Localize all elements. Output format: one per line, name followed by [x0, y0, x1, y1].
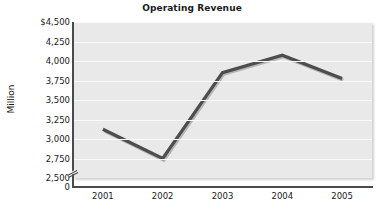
- y-axis-tick-label: 3,250: [24, 116, 70, 125]
- x-axis-tick-label: 2003: [193, 191, 253, 201]
- y-axis-title: Million: [6, 69, 16, 129]
- y-axis-tick-label: $4,500: [24, 18, 70, 27]
- y-axis-tick-label: 2,500: [24, 174, 70, 183]
- axis-break-icon: [66, 163, 80, 179]
- y-axis-tick-label: 3,000: [24, 135, 70, 144]
- gridline: [73, 22, 372, 23]
- gridline: [73, 139, 372, 140]
- x-axis-tick-labels: 20012002200320042005: [73, 191, 372, 207]
- y-axis-tick-label: 4,250: [24, 38, 70, 47]
- data-line: [103, 55, 342, 158]
- gridline: [73, 61, 372, 62]
- gridline: [73, 120, 372, 121]
- gridline: [73, 159, 372, 160]
- x-axis-line: [72, 186, 373, 188]
- gridline: [73, 100, 372, 101]
- y-axis-tick-label: 3,750: [24, 77, 70, 86]
- x-axis-tick-label: 2001: [73, 191, 133, 201]
- gridline: [73, 42, 372, 43]
- x-axis-tick-label: 2002: [133, 191, 193, 201]
- y-axis-tick-label: 4,000: [24, 57, 70, 66]
- y-axis-tick-label: 2,750: [24, 155, 70, 164]
- y-axis-tick-label: 3,500: [24, 96, 70, 105]
- chart-title: Operating Revenue: [0, 3, 384, 13]
- x-axis-tick-label: 2004: [252, 191, 312, 201]
- line-chart: Operating Revenue Million $4,5004,2504,0…: [0, 0, 384, 212]
- y-axis-tick-labels: $4,5004,2504,0003,7503,5003,2503,0002,75…: [24, 22, 70, 178]
- gridline: [73, 81, 372, 82]
- y-axis-origin-label: 0: [24, 183, 70, 192]
- plot-area: [73, 22, 372, 178]
- x-axis-tick-label: 2005: [312, 191, 372, 201]
